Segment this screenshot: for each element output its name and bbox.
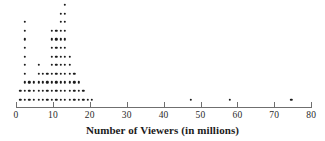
x-axis-tick-label: 10	[48, 110, 58, 120]
data-point-dot	[37, 72, 39, 74]
data-point-dot	[59, 12, 61, 14]
data-point-dot	[55, 90, 57, 92]
data-point-dot	[59, 81, 61, 83]
data-point-dot	[82, 98, 84, 100]
data-point-dot	[55, 55, 57, 57]
dot-plot-figure: 01020304050607080 Number of Viewers (in …	[0, 0, 325, 141]
data-point-dot	[28, 81, 30, 83]
data-point-dot	[46, 81, 48, 83]
data-point-dot	[78, 81, 80, 83]
dot-plot-data-area	[0, 0, 325, 108]
x-axis-tick-label: 70	[269, 110, 279, 120]
data-point-dot	[55, 81, 57, 83]
data-point-dot	[37, 81, 39, 83]
data-point-dot	[59, 21, 61, 23]
data-point-dot	[64, 72, 66, 74]
data-point-dot	[73, 81, 75, 83]
data-point-dot	[51, 90, 53, 92]
x-axis-tick-label: 30	[122, 110, 132, 120]
data-point-dot	[229, 98, 231, 100]
data-point-dot	[73, 72, 75, 74]
data-point-dot	[73, 90, 75, 92]
data-point-dot	[24, 81, 26, 83]
data-point-dot	[42, 90, 44, 92]
data-point-dot	[64, 4, 66, 6]
data-point-dot	[42, 81, 44, 83]
data-point-dot	[19, 98, 21, 100]
data-point-dot	[82, 90, 84, 92]
data-point-dot	[42, 72, 44, 74]
data-point-dot	[64, 38, 66, 40]
x-axis-tick-label: 40	[159, 110, 169, 120]
data-point-dot	[46, 90, 48, 92]
data-point-dot	[64, 64, 66, 66]
data-point-dot	[69, 55, 71, 57]
data-point-dot	[59, 47, 61, 49]
data-point-dot	[86, 98, 88, 100]
data-point-dot	[55, 47, 57, 49]
x-axis-tick-label: 80	[306, 110, 316, 120]
data-point-dot	[64, 90, 66, 92]
data-point-dot	[46, 98, 48, 100]
data-point-dot	[64, 81, 66, 83]
data-point-dot	[59, 55, 61, 57]
data-point-dot	[37, 90, 39, 92]
data-point-dot	[33, 98, 35, 100]
data-point-dot	[19, 90, 21, 92]
data-point-dot	[42, 98, 44, 100]
data-point-dot	[55, 98, 57, 100]
data-point-dot	[24, 72, 26, 74]
data-point-dot	[51, 81, 53, 83]
data-point-dot	[59, 72, 61, 74]
data-point-dot	[189, 98, 191, 100]
data-point-dot	[24, 90, 26, 92]
data-point-dot	[69, 64, 71, 66]
data-point-dot	[33, 81, 35, 83]
data-point-dot	[33, 90, 35, 92]
data-point-dot	[51, 55, 53, 57]
data-point-dot	[37, 64, 39, 66]
data-point-dot	[64, 55, 66, 57]
data-point-dot	[69, 81, 71, 83]
data-point-dot	[69, 90, 71, 92]
data-point-dot	[59, 98, 61, 100]
data-point-dot	[59, 29, 61, 31]
data-point-dot	[69, 72, 71, 74]
data-point-dot	[24, 55, 26, 57]
data-point-dot	[64, 29, 66, 31]
data-point-dot	[69, 98, 71, 100]
data-point-dot	[24, 98, 26, 100]
data-point-dot	[73, 98, 75, 100]
data-point-dot	[64, 21, 66, 23]
x-axis-tick-label: 20	[85, 110, 95, 120]
data-point-dot	[51, 38, 53, 40]
data-point-dot	[46, 72, 48, 74]
data-point-dot	[78, 98, 80, 100]
data-point-dot	[64, 12, 66, 14]
data-point-dot	[28, 98, 30, 100]
x-axis-tick-label: 0	[14, 110, 19, 120]
data-point-dot	[78, 90, 80, 92]
data-point-dot	[51, 72, 53, 74]
data-point-dot	[55, 38, 57, 40]
data-point-dot	[37, 98, 39, 100]
x-axis-title: Number of Viewers (in millions)	[0, 124, 325, 136]
data-point-dot	[24, 29, 26, 31]
data-point-dot	[24, 64, 26, 66]
data-point-dot	[59, 90, 61, 92]
x-axis-tick-label: 50	[196, 110, 206, 120]
data-point-dot	[24, 38, 26, 40]
data-point-dot	[55, 29, 57, 31]
data-point-dot	[51, 29, 53, 31]
data-point-dot	[51, 47, 53, 49]
data-point-dot	[51, 64, 53, 66]
x-axis-tick-label: 60	[232, 110, 242, 120]
data-point-dot	[55, 64, 57, 66]
data-point-dot	[91, 98, 93, 100]
data-point-dot	[55, 72, 57, 74]
data-point-dot	[59, 38, 61, 40]
data-point-dot	[59, 64, 61, 66]
data-point-dot	[290, 98, 292, 100]
data-point-dot	[64, 47, 66, 49]
data-point-dot	[24, 47, 26, 49]
